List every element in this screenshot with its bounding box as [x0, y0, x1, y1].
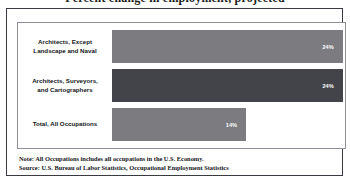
- bar-label-line-1: Architects, Surveyors,: [21, 77, 109, 85]
- bar-label-line-1: Total, All Occupations: [21, 120, 109, 128]
- note-text: Note: All Occupations includes all occup…: [19, 154, 339, 163]
- bar-label: Architects, Surveyors, and Cartographers: [18, 77, 112, 94]
- source-text: Source: U.S. Bureau of Labor Statistics,…: [19, 163, 339, 172]
- bar-row-architects-surveyors-cartographers: Architects, Surveyors, and Cartographers…: [18, 69, 345, 102]
- chart-title: Percent change in employment, projected: [65, 0, 285, 6]
- bar-row-architects-except-landscape-naval: Architects, Except Landscape and Naval 2…: [18, 30, 345, 63]
- bar-label-line-2: and Cartographers: [21, 86, 109, 94]
- bar-label-line-2: Landscape and Naval: [21, 47, 109, 55]
- chart-title-strip: Percent change in employment, projected: [0, 0, 350, 7]
- bar-label-line-1: Architects, Except: [21, 38, 109, 46]
- bar-track: 14%: [112, 108, 345, 141]
- bar-value-label: 24%: [322, 44, 342, 50]
- bar-row-total-all-occupations: Total, All Occupations 14%: [18, 108, 345, 141]
- plot-area: Architects, Except Landscape and Naval 2…: [17, 22, 346, 149]
- bar[interactable]: 24%: [112, 30, 343, 63]
- bar-track: 24%: [112, 30, 345, 63]
- chart-figure: Percent change in employment, projected …: [0, 0, 350, 183]
- bar[interactable]: 14%: [112, 108, 246, 141]
- chart-outer-border: Architects, Except Landscape and Naval 2…: [6, 8, 343, 176]
- bar[interactable]: 24%: [112, 69, 343, 102]
- bar-value-label: 14%: [226, 122, 246, 128]
- bar-track: 24%: [112, 69, 345, 102]
- chart-footnotes: Note: All Occupations includes all occup…: [19, 154, 339, 173]
- bar-label: Architects, Except Landscape and Naval: [18, 38, 112, 55]
- bar-value-label: 24%: [322, 83, 342, 89]
- bar-label: Total, All Occupations: [18, 120, 112, 128]
- bar-rows: Architects, Except Landscape and Naval 2…: [18, 23, 345, 148]
